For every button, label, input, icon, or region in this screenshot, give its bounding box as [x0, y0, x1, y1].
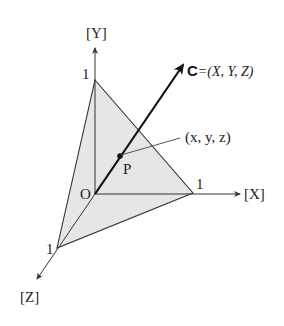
x-tick-label: 1: [196, 176, 204, 192]
point-p-dot: [117, 153, 123, 159]
vector-c-label: C=(X, Y, Z): [187, 62, 254, 80]
vector-c-name: C: [187, 62, 198, 79]
vector-c-components: =(X, Y, Z): [198, 64, 254, 80]
point-coords-label: (x, y, z): [185, 129, 231, 146]
diagram-canvas: [Y] 1 [X] 1 [Z] 1 O C=(X, Y, Z) P (x, y,…: [0, 0, 284, 326]
y-axis-label: [Y]: [86, 25, 107, 41]
point-p-label: P: [123, 161, 131, 177]
origin-label: O: [80, 186, 91, 202]
z-axis-label: [Z]: [20, 289, 39, 305]
x-axis-label: [X]: [244, 186, 265, 202]
z-tick-label: 1: [46, 241, 54, 257]
y-tick-label: 1: [82, 66, 90, 82]
